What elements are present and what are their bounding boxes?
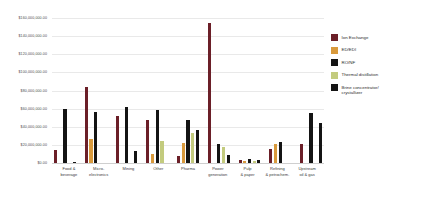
y-axis-tick-label: $40,000,000.00 [21, 125, 47, 129]
legend-item: ED/EDI [331, 47, 419, 54]
bar [274, 144, 277, 163]
bar [134, 151, 137, 163]
x-axis-label: Upstream oil & gas [292, 166, 322, 198]
bar-group [116, 18, 138, 163]
legend-item: Brine concentrator/ crystallizer [331, 84, 419, 96]
y-axis-tick-label: $20,000,000.00 [21, 143, 47, 147]
plot-area [52, 18, 324, 163]
bar [257, 160, 260, 163]
x-axis-label: Refining & petrochem. [262, 166, 292, 198]
legend-label: Ion Exchange [342, 34, 369, 40]
bar-chart: $160,000,000.00$140,000,000.00$120,000,0… [0, 0, 421, 201]
bar [63, 109, 66, 163]
x-axis-labels: Food & beverageMicro- electronicsMiningO… [52, 166, 324, 198]
bar-group [85, 18, 107, 163]
x-axis-label: Other [143, 166, 173, 198]
y-axis-tick-label: $140,000,000.00 [19, 34, 47, 38]
bar [227, 155, 230, 163]
axis-baseline [52, 163, 324, 164]
bar [125, 107, 128, 163]
legend-item: Ion Exchange [331, 34, 419, 41]
bar [73, 162, 76, 163]
y-axis-tick-label: $160,000,000.00 [19, 16, 47, 20]
bar [94, 112, 97, 163]
bar-group [177, 18, 199, 163]
legend-swatch [331, 34, 338, 41]
bar [208, 23, 211, 163]
bar [54, 150, 57, 163]
y-axis: $160,000,000.00$140,000,000.00$120,000,0… [0, 0, 50, 201]
bar-group [300, 18, 322, 163]
x-axis-label: Power generation [203, 166, 233, 198]
bar [319, 123, 322, 163]
y-axis-tick-label: $120,000,000.00 [19, 52, 47, 56]
bar [300, 144, 303, 163]
bar [151, 154, 154, 163]
bar [248, 159, 251, 163]
bar [217, 144, 220, 163]
x-axis-label: Micro- electronics [84, 166, 114, 198]
bar [279, 142, 282, 163]
legend-swatch [331, 84, 338, 91]
bar [177, 156, 180, 163]
bar [196, 130, 199, 163]
y-axis-tick-label: $60,000,000.00 [21, 107, 47, 111]
y-axis-tick-label: $80,000,000.00 [21, 89, 47, 93]
legend-item: RO/NF [331, 59, 419, 66]
legend-label: Thermal distillation [342, 72, 379, 78]
x-axis-label: Mining [114, 166, 144, 198]
bar [239, 160, 242, 163]
bar-group [269, 18, 291, 163]
bar [253, 161, 256, 163]
legend-swatch [331, 59, 338, 66]
bar [186, 120, 189, 163]
bar [269, 149, 272, 163]
legend-label: RO/NF [342, 59, 356, 65]
bar [85, 87, 88, 163]
x-axis-label: Pulp & paper [233, 166, 263, 198]
bar-group [146, 18, 168, 163]
legend-swatch [331, 72, 338, 79]
bar [146, 120, 149, 164]
bar-groups [52, 18, 324, 163]
bar [222, 147, 225, 163]
bar [309, 113, 312, 163]
bar-group [54, 18, 76, 163]
bar [156, 110, 159, 163]
x-axis-label: Pharma [173, 166, 203, 198]
legend-label: Brine concentrator/ crystallizer [342, 84, 379, 96]
bar [89, 139, 92, 163]
bar [182, 143, 185, 163]
bar [116, 116, 119, 163]
chart-legend: Ion ExchangeED/EDIRO/NFThermal distillat… [331, 34, 419, 102]
bar-group [239, 18, 261, 163]
x-axis-label: Food & beverage [54, 166, 84, 198]
legend-swatch [331, 47, 338, 54]
bar [160, 141, 163, 163]
bar-group [208, 18, 230, 163]
y-axis-tick-label: $100,000,000.00 [19, 70, 47, 74]
bar [191, 133, 194, 163]
bar [243, 161, 246, 163]
legend-label: ED/EDI [342, 47, 357, 53]
legend-item: Thermal distillation [331, 72, 419, 79]
y-axis-tick-label: $0.00 [38, 161, 48, 165]
